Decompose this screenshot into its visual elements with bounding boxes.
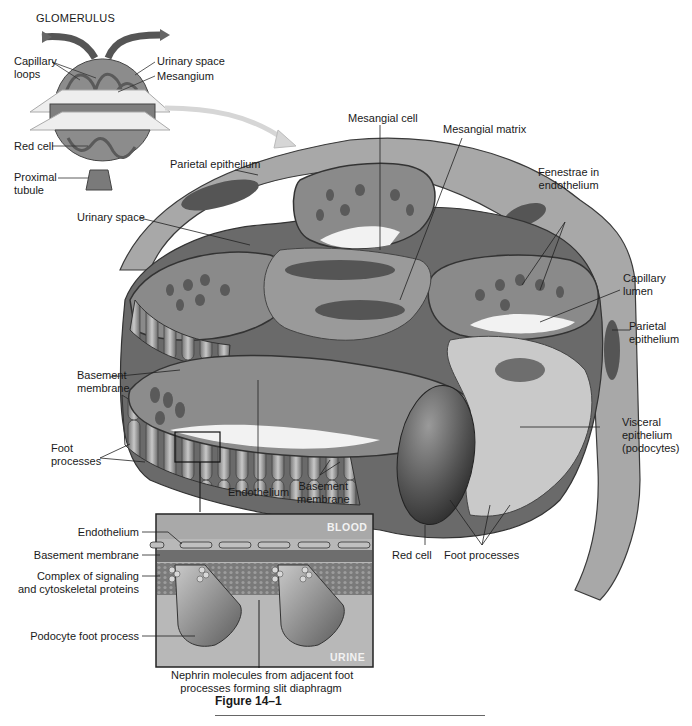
- glomerulus-diagram: [0, 0, 692, 726]
- label-red-cell-small: Red cell: [14, 140, 54, 153]
- label-basement-membrane-bottom: Basement membrane: [297, 480, 350, 506]
- label-capillary-loops: Capillary loops: [14, 55, 57, 81]
- label-inset-basement-membrane: Basement membrane: [34, 549, 139, 562]
- label-proximal-tubule: Proximal tubule: [14, 171, 57, 197]
- label-parietal-epithelium-right: Parietal epithelium: [629, 320, 679, 346]
- label-mesangial-cell: Mesangial cell: [348, 112, 418, 125]
- glomerulus-title: GLOMERULUS: [36, 12, 115, 24]
- slit-diaphragm-inset: [142, 514, 373, 668]
- label-foot-processes-left: Foot processes: [51, 442, 101, 468]
- caption-rule: [215, 715, 485, 716]
- label-podocyte-foot-process: Podocyte foot process: [30, 630, 139, 643]
- label-basement-membrane-left: Basement membrane: [77, 369, 130, 395]
- label-capillary-lumen: Capillary lumen: [623, 272, 666, 298]
- label-urinary-space-small: Urinary space: [157, 55, 225, 68]
- label-red-cell: Red cell: [392, 549, 432, 562]
- urine-tag: URINE: [330, 651, 365, 663]
- blood-tag: BLOOD: [327, 521, 367, 533]
- label-inset-endothelium: Endothelium: [78, 526, 139, 539]
- label-visceral-epithelium: Visceral epithelium (podocytes): [622, 416, 679, 455]
- label-foot-processes-bottom: Foot processes: [444, 549, 519, 562]
- label-nephrin: Nephrin molecules from adjacent foot pro…: [171, 669, 351, 695]
- label-inset-complex: Complex of signaling and cytoskeletal pr…: [18, 570, 139, 596]
- label-mesangium: Mesangium: [157, 70, 214, 83]
- label-mesangial-matrix: Mesangial matrix: [443, 123, 526, 136]
- label-fenestrae: Fenestrae in endothelium: [538, 166, 599, 192]
- label-urinary-space: Urinary space: [77, 211, 145, 224]
- label-endothelium: Endothelium: [228, 486, 289, 499]
- figure-caption: Figure 14–1: [215, 694, 282, 708]
- label-parietal-epithelium-top: Parietal epithelium: [170, 158, 261, 171]
